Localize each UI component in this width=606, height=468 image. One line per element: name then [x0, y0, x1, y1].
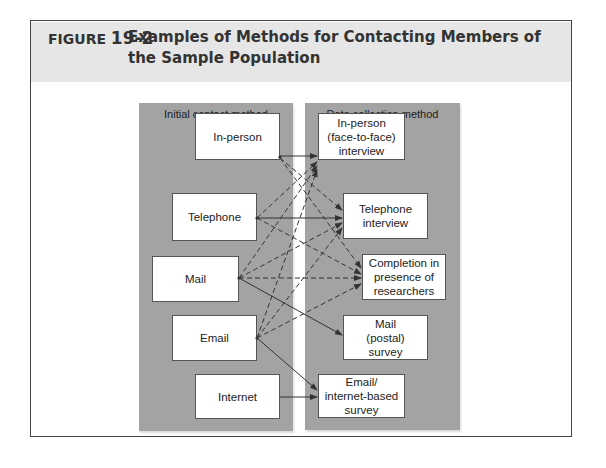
node-email: Email [172, 315, 257, 361]
node-telephone: Telephone [172, 193, 257, 241]
node-completion-in-presence: Completion in presence of researchers [362, 254, 446, 300]
node-mail-survey: Mail (postal) survey [343, 315, 428, 360]
figure-frame [30, 20, 572, 437]
node-mail: Mail [152, 256, 239, 302]
node-email-internet-survey: Email/ internet-based survey [318, 374, 405, 418]
figure-label-word: FIGURE [48, 31, 106, 47]
node-in-person: In-person [195, 113, 280, 160]
node-internet: Internet [195, 374, 280, 419]
node-telephone-interview: Telephone interview [343, 193, 428, 239]
node-in-person-interview: In-person (face-to-face) interview [318, 113, 405, 160]
figure-title: Examples of Methods for Contacting Membe… [128, 27, 548, 69]
